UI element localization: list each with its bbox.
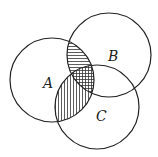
label-a: A — [41, 75, 53, 91]
venn-diagram: A B C — [0, 0, 158, 157]
region-a-b-c — [0, 0, 158, 157]
label-b: B — [107, 48, 118, 64]
label-c: C — [96, 108, 107, 124]
